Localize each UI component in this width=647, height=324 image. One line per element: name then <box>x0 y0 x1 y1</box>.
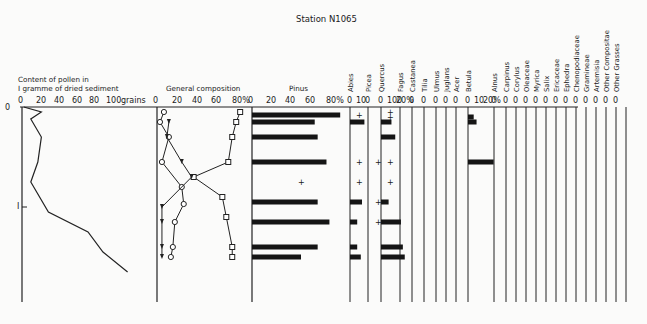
taxon-tick: 0 <box>583 96 588 105</box>
taxon-label: Other Grasses <box>613 43 621 92</box>
pinus-ticks: 020406080% <box>248 96 344 105</box>
depth-tick-0: 0 <box>5 103 10 112</box>
pinus-bar <box>252 135 318 140</box>
square-marker <box>230 245 235 250</box>
taxon-label: Alnus <box>491 73 499 92</box>
taxon-bar <box>381 120 391 125</box>
taxon-bar <box>381 220 401 225</box>
taxon-label: Quercus <box>378 63 386 92</box>
trace-marker: + <box>375 198 382 207</box>
taxon-bar <box>381 135 395 140</box>
arrow-marker <box>167 119 171 124</box>
arrow-marker <box>160 204 164 209</box>
pinus-tick: 60 <box>305 96 315 105</box>
taxon-tick: 0 <box>443 96 448 105</box>
circle-marker <box>157 119 162 124</box>
square-marker <box>230 135 235 140</box>
pollen-content-tick: 20 <box>36 96 46 105</box>
taxon-label: Gramineae <box>583 54 591 92</box>
pinus-label: Pinus <box>289 84 308 93</box>
general-composition-tick: 60 <box>211 96 221 105</box>
circle-marker <box>161 109 166 114</box>
taxon-label: Ulmus <box>433 70 441 92</box>
taxon-label: Ericaceae <box>553 59 561 92</box>
circle-marker <box>170 244 175 249</box>
taxon-tick: 0 <box>593 96 598 105</box>
pinus-bar <box>252 220 329 225</box>
pinus-bar <box>252 113 340 118</box>
pollen-content-tick: 100 <box>106 96 121 105</box>
taxon-label: Ephedra <box>563 64 571 92</box>
circle-marker <box>181 201 186 206</box>
square-marker <box>234 120 239 125</box>
general-composition-tick: 20 <box>172 96 182 105</box>
square-marker <box>224 215 229 220</box>
composition-line <box>194 112 241 257</box>
taxon-label: Fagus <box>397 72 405 92</box>
taxon-tick: 0 <box>523 96 528 105</box>
trace-marker: + <box>298 178 305 187</box>
trace-marker: + <box>387 158 394 167</box>
general-composition-tick: 0 <box>153 96 158 105</box>
taxon-tick: 0 <box>543 96 548 105</box>
taxon-label: Betula <box>465 70 473 92</box>
general-composition-ticks: 020406080% <box>153 96 250 105</box>
plot-area: +++++++++++ <box>24 107 626 302</box>
taxon-tick: 0 <box>563 96 568 105</box>
pollen-content-line <box>24 107 128 272</box>
pinus-tick: 80% <box>326 96 344 105</box>
arrow-marker <box>160 219 164 224</box>
pinus-tick: 40 <box>285 96 295 105</box>
taxon-bar <box>350 245 357 250</box>
taxon-label: Other Compositae <box>603 30 611 92</box>
circle-marker <box>159 159 164 164</box>
general-composition-label: General composition <box>166 84 240 93</box>
taxon-tick: 0 <box>453 96 458 105</box>
taxon-bar <box>381 245 403 250</box>
taxon-label: Salix <box>543 76 551 92</box>
pinus-tick: 20 <box>266 96 276 105</box>
pollen-content-ticks: 020406080100grains <box>18 96 146 105</box>
taxon-label: Carpinus <box>503 61 511 92</box>
square-marker <box>230 255 235 260</box>
taxon-label: Corylus <box>513 66 521 92</box>
pollen-content-label-2: I gramme of dried sediment <box>18 84 119 93</box>
taxon-tick: 0 <box>421 96 426 105</box>
taxon-tick: 0 <box>347 96 352 105</box>
taxon-tick: 0 <box>553 96 558 105</box>
taxon-tick: 0 <box>503 96 508 105</box>
pollen-content-tick: 0 <box>18 96 23 105</box>
chart-title: Station N1065 <box>296 14 357 24</box>
taxon-bar <box>350 220 357 225</box>
depth-tick-1: I <box>17 202 19 211</box>
taxon-tick: 0 <box>573 96 578 105</box>
taxon-label: Artemisia <box>593 60 601 92</box>
pollen-content-tick: 80 <box>89 96 99 105</box>
arrow-marker <box>160 254 164 259</box>
taxon-bar <box>468 120 477 125</box>
pinus-tick: 0 <box>248 96 253 105</box>
trace-marker: + <box>356 158 363 167</box>
square-marker <box>226 160 231 165</box>
taxon-bar <box>350 200 362 205</box>
taxon-label: Juglans <box>443 67 451 93</box>
composition-line <box>162 122 192 257</box>
circle-marker <box>172 219 177 224</box>
taxon-label: Picea <box>365 74 373 92</box>
taxon-bar <box>381 200 389 205</box>
taxon-label: Chenopodiaceae <box>573 35 581 92</box>
taxon-bar <box>350 120 364 125</box>
pinus-bar <box>252 200 318 205</box>
taxa-labels: AbiesPiceaQuercusFagusCastaneaTiliaUlmus… <box>347 30 621 93</box>
square-marker <box>238 110 243 115</box>
taxon-label: Castanea <box>409 60 417 92</box>
pollen-content-unit: grains <box>121 96 146 105</box>
taxon-bar <box>350 255 361 260</box>
taxon-tick: 0 <box>433 96 438 105</box>
taxon-tick: 0 <box>365 96 370 105</box>
taxa-ticks: 010001020%00000001020%0000000000000 <box>347 96 618 105</box>
pinus-bar <box>252 255 301 260</box>
pinus-bar <box>252 245 318 250</box>
taxon-tick: 0 <box>513 96 518 105</box>
taxon-label: Abies <box>347 73 355 92</box>
